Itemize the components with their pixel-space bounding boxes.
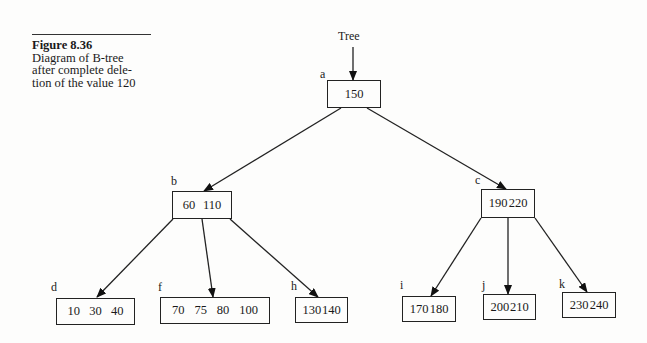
tree-root-pointer-label: Tree bbox=[338, 29, 360, 44]
node-label-a: a bbox=[320, 67, 325, 82]
node-key: 60 bbox=[183, 198, 196, 213]
node-label-b: b bbox=[171, 174, 177, 189]
node-key: 80 bbox=[217, 303, 230, 318]
node-key: 180 bbox=[430, 302, 449, 317]
edge-c-i bbox=[431, 218, 481, 296]
edge-a-c bbox=[367, 108, 506, 189]
node-key: 170 bbox=[410, 302, 429, 317]
node-key: 190 bbox=[489, 196, 508, 211]
btree-node-k: 230 240 bbox=[562, 292, 616, 318]
node-key: 200 bbox=[490, 300, 509, 315]
edge-b-h bbox=[230, 219, 318, 297]
btree-node-c: 190 220 bbox=[481, 189, 535, 218]
edge-a-b bbox=[204, 108, 341, 191]
node-key: 240 bbox=[590, 298, 609, 313]
btree-node-a: 150 bbox=[327, 80, 381, 108]
node-key: 140 bbox=[322, 303, 341, 318]
node-key: 230 bbox=[570, 298, 589, 313]
node-label-h: h bbox=[291, 279, 297, 294]
btree-node-f: 70 75 80 100 bbox=[160, 297, 270, 324]
btree-node-h: 130 140 bbox=[295, 297, 348, 323]
btree-node-j: 200 210 bbox=[483, 294, 536, 320]
node-label-c: c bbox=[475, 173, 480, 188]
edge-b-f bbox=[202, 219, 213, 297]
node-key: 40 bbox=[111, 304, 124, 319]
node-label-i: i bbox=[400, 278, 403, 293]
edges-layer bbox=[0, 0, 647, 343]
node-label-j: j bbox=[482, 278, 485, 293]
node-key: 100 bbox=[239, 303, 258, 318]
node-label-d: d bbox=[51, 280, 57, 295]
btree-node-d: 10 30 40 bbox=[56, 298, 135, 325]
node-key: 10 bbox=[68, 304, 81, 319]
node-key: 75 bbox=[194, 303, 207, 318]
node-key: 150 bbox=[345, 87, 364, 102]
node-key: 130 bbox=[302, 303, 321, 318]
node-key: 30 bbox=[89, 304, 102, 319]
node-key: 220 bbox=[509, 196, 528, 211]
btree-node-b: 60 110 bbox=[172, 191, 232, 219]
node-key: 210 bbox=[510, 300, 529, 315]
node-key: 110 bbox=[203, 198, 221, 213]
node-label-k: k bbox=[559, 277, 565, 292]
btree-node-i: 170 180 bbox=[402, 296, 456, 322]
node-label-f: f bbox=[158, 280, 162, 295]
node-key: 70 bbox=[172, 303, 185, 318]
